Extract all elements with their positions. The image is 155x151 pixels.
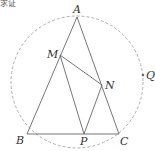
point-q-dot	[142, 74, 145, 77]
circumcircle	[11, 16, 143, 148]
segment-mp	[60, 55, 84, 134]
segment-ab	[27, 17, 77, 134]
cropped-text-fragment: 求证	[0, 0, 16, 8]
segment-ac	[77, 17, 119, 134]
label-c: C	[120, 135, 129, 148]
label-p: P	[79, 135, 88, 148]
geometry-diagram: 求证 A M N Q B P C	[0, 0, 155, 151]
label-m: M	[46, 48, 59, 61]
label-q: Q	[146, 69, 155, 82]
segment-np	[84, 85, 102, 134]
label-a: A	[72, 3, 81, 16]
label-n: N	[104, 79, 115, 92]
label-b: B	[15, 134, 24, 147]
